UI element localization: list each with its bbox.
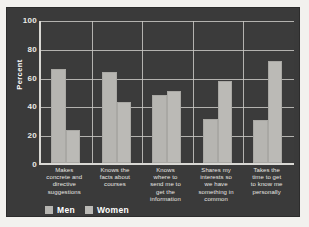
bar-group	[142, 21, 193, 163]
bar-group	[41, 21, 92, 163]
chart-legend: Men Women	[45, 205, 129, 215]
category-label-line: facts about	[90, 174, 141, 181]
bar-group	[92, 21, 143, 163]
y-tick-label: 40	[11, 103, 37, 111]
category-label-line: interests so	[191, 174, 242, 181]
category-label-line: time to get	[241, 174, 292, 181]
y-tick-label: 20	[11, 132, 37, 140]
bar-women	[167, 91, 181, 163]
category-label-line: get the	[140, 189, 191, 196]
category-label-line: common	[191, 196, 242, 203]
y-tick-label: 0	[11, 161, 37, 169]
category-label-line: to know me	[241, 181, 292, 188]
y-tick-label: 100	[11, 17, 37, 25]
legend-swatch-women	[85, 206, 93, 214]
x-axis-category-labels: Makes concrete and directive suggestions…	[39, 167, 294, 209]
bar-women	[218, 81, 232, 163]
legend-item-men: Men	[45, 205, 75, 215]
bar-men	[203, 119, 218, 163]
category-label-line: courses	[90, 181, 141, 188]
bar-men	[152, 95, 167, 163]
category-label-line: where to	[140, 174, 191, 181]
category-label-line: information	[140, 196, 191, 203]
category-label-line: Shares my	[191, 167, 242, 174]
chart-figure: 100 80 60 40 20 0 Percent	[0, 0, 309, 227]
bar-group	[193, 21, 244, 163]
chart-panel: 100 80 60 40 20 0 Percent	[7, 8, 299, 216]
category-label-line: we have	[191, 181, 242, 188]
category-label-line: personally	[241, 189, 292, 196]
legend-item-women: Women	[85, 205, 129, 215]
category-label-line: concrete and	[39, 174, 90, 181]
category-label-line: Knows	[140, 167, 191, 174]
category-label-4: Takes the time to get to know me persona…	[241, 167, 292, 196]
category-label-0: Makes concrete and directive suggestions	[39, 167, 90, 196]
category-label-line: send me to	[140, 181, 191, 188]
bar-women	[66, 130, 80, 163]
category-label-line: suggestions	[39, 189, 90, 196]
category-label-line: Knows the	[90, 167, 141, 174]
category-label-line: Makes	[39, 167, 90, 174]
legend-label-men: Men	[57, 205, 75, 215]
bar-men	[102, 72, 117, 163]
legend-label-women: Women	[97, 205, 129, 215]
category-label-3: Shares my interests so we have something…	[191, 167, 242, 203]
bar-women	[117, 102, 131, 163]
bar-group	[243, 21, 294, 163]
category-label-2: Knows where to send me to get the inform…	[140, 167, 191, 203]
category-label-line: something in	[191, 189, 242, 196]
bar-men	[253, 120, 268, 163]
y-axis-label: Percent	[15, 51, 24, 99]
legend-swatch-men	[45, 206, 53, 214]
category-label-1: Knows the facts about courses	[90, 167, 141, 189]
category-label-line: directive	[39, 181, 90, 188]
category-label-line: Takes the	[241, 167, 292, 174]
plot-area	[39, 21, 294, 165]
bar-women	[268, 61, 282, 163]
bar-men	[51, 69, 66, 163]
